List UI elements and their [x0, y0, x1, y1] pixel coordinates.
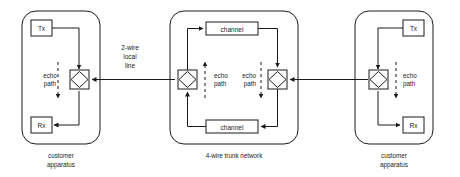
left-caption-line1: customer	[48, 152, 74, 159]
local-line-label-line3: line	[125, 62, 136, 69]
trunk-caption: 4-wire trunk network	[206, 152, 264, 159]
local-line-label-line2: local	[123, 53, 137, 60]
right-caption-line1: customer	[381, 152, 407, 159]
right-echo-label-line2: path	[403, 80, 416, 88]
diagram-canvas: Tx Rx echo path customer apparatus	[0, 0, 460, 177]
trunk-echo-right-line2: path	[244, 80, 257, 88]
channel-bottom-label: channel	[221, 124, 244, 131]
trunk-echo-left-line1: echo	[214, 72, 228, 79]
right-hybrid	[369, 70, 388, 89]
trunk-echo-right-line1: echo	[242, 72, 256, 79]
right-echo-label-line1: echo	[403, 72, 417, 79]
local-line-label-line1: 2-wire	[121, 44, 139, 51]
left-hybrid	[70, 70, 89, 89]
channel-top-label: channel	[221, 26, 244, 33]
left-caption-line2: apparatus	[47, 161, 75, 169]
left-echo-label-line1: echo	[43, 72, 57, 79]
echo-path-diagram: Tx Rx echo path customer apparatus	[0, 0, 460, 177]
right-hybrid-to-rx-wire	[378, 91, 400, 125]
left-tx-to-hybrid-wire	[52, 28, 79, 69]
group-right-customer: Tx Rx echo path customer apparatus	[355, 11, 433, 169]
group-left-customer: Tx Rx echo path customer apparatus	[22, 11, 100, 169]
connector-left-local-line: 2-wire local line	[92, 44, 175, 80]
right-rx-label: Rx	[410, 122, 419, 129]
trunk-left-up-to-channel-wire	[188, 29, 204, 71]
trunk-echo-left-line2: path	[214, 80, 227, 88]
trunk-hybrid-left	[178, 70, 197, 89]
left-echo-label-line2: path	[44, 80, 57, 88]
group-trunk-network: channel channel echo	[170, 11, 298, 159]
trunk-hybrid-right	[268, 70, 287, 89]
left-tx-label: Tx	[38, 25, 46, 32]
left-rx-label: Rx	[38, 122, 47, 129]
right-tx-to-hybrid-wire	[378, 28, 403, 69]
left-hybrid-to-rx-wire	[54, 91, 79, 125]
right-caption-line2: apparatus	[380, 161, 408, 169]
trunk-right-down-to-channel-wire	[261, 89, 278, 127]
trunk-channel-top-to-right-hybrid-wire	[258, 29, 278, 68]
right-tx-label: Tx	[410, 25, 418, 32]
trunk-channel-bottom-to-left-hybrid-wire	[188, 92, 207, 127]
